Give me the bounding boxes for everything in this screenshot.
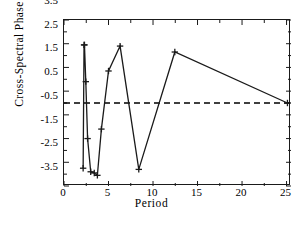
data-point-marker [284,100,290,106]
y-axis-tick-labels: 3.52.51.50.5-0.5-1.5-2.5-3.5 [0,0,58,166]
data-point-marker [84,135,90,141]
y-tick-label: -1.5 [41,113,58,125]
data-point-marker [98,126,104,132]
series-line-0 [83,45,287,175]
data-point-marker [136,166,142,172]
x-axis-label: Period [0,197,303,209]
y-tick-label: -2.5 [41,136,58,148]
data-point-marker [80,165,86,171]
plot-area [64,20,289,184]
data-point-marker [88,169,94,175]
y-tick-label: -0.5 [41,89,58,101]
data-series-plot [64,20,291,186]
y-tick-label: 1.5 [44,41,58,53]
cross-spectral-phase-chart: Cross-Spectral Phase 3.52.51.50.5-0.5-1.… [0,0,303,225]
data-point-marker [117,43,123,49]
y-tick-label: -3.5 [41,160,58,172]
data-point-marker [105,68,111,74]
y-tick-label: 3.5 [44,0,58,6]
y-tick-label: 0.5 [44,65,58,77]
data-point-marker [81,42,87,48]
data-point-marker [172,49,178,55]
y-tick-label: 2.5 [44,18,58,30]
plot-frame [63,19,290,185]
